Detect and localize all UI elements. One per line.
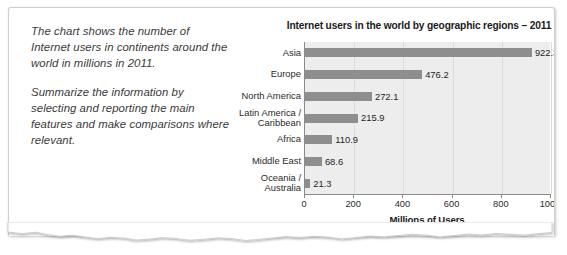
bar [305, 48, 532, 57]
bar [305, 135, 332, 144]
bar-chart: Internet users in the world by geographi… [237, 16, 555, 230]
bar [305, 70, 422, 79]
prompt-paragraph-1: The chart shows the number of Internet u… [31, 23, 231, 72]
x-axis-line [304, 194, 550, 195]
gridline [403, 42, 404, 194]
bar-value-label: 476.2 [425, 69, 448, 80]
bar-value-label: 922.3 [535, 47, 555, 58]
gridline [502, 42, 503, 194]
x-axis-tick [353, 194, 354, 198]
bar-value-label: 272.1 [375, 91, 398, 102]
x-axis-tick [550, 194, 551, 198]
x-axis-tick-label: 600 [444, 199, 460, 209]
category-label: North America [237, 91, 301, 102]
x-axis-tick-label: 0 [301, 199, 306, 209]
x-axis-tick [501, 194, 502, 198]
screenshot-root: The chart shows the number of Internet u… [0, 0, 567, 255]
bar-value-label: 68.6 [325, 156, 343, 167]
x-axis-tick [402, 194, 403, 198]
category-label: Middle East [237, 156, 301, 167]
x-axis-title: Millions of Users [304, 214, 550, 225]
x-axis-tick [304, 194, 305, 198]
bar [305, 92, 372, 101]
bar-value-label: 215.9 [361, 112, 384, 123]
bar [305, 114, 358, 123]
x-axis-tick-label: 800 [493, 199, 509, 209]
prompt-paragraph-2: Summarize the information by selecting a… [31, 84, 231, 149]
worksheet-card: The chart shows the number of Internet u… [8, 7, 555, 236]
chart-title: Internet users in the world by geographi… [275, 20, 555, 31]
task-prompt: The chart shows the number of Internet u… [31, 23, 231, 148]
x-axis-tick [452, 194, 453, 198]
category-label: Europe [237, 69, 301, 80]
x-axis-tick-label: 200 [345, 199, 361, 209]
category-label: Africa [237, 134, 301, 145]
gridline [551, 42, 552, 194]
x-axis-tick-label: 1000 [540, 199, 555, 209]
x-axis-tick-label: 400 [395, 199, 411, 209]
bar [305, 157, 322, 166]
gridline [453, 42, 454, 194]
bar-value-label: 21.3 [313, 178, 331, 189]
category-label: Oceania / Australia [237, 173, 301, 194]
category-label: Latin America / Caribbean [237, 108, 301, 129]
bar-value-label: 110.9 [335, 134, 358, 145]
category-label: Asia [237, 48, 301, 59]
bar [305, 179, 310, 188]
